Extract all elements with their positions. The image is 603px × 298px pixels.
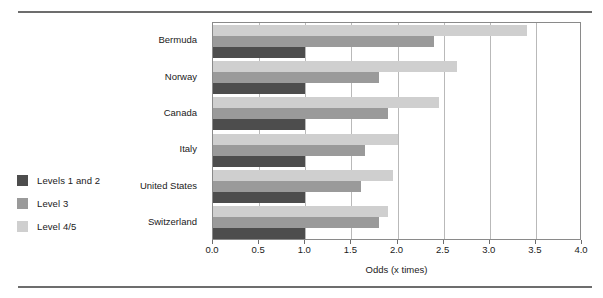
x-tick-label: 2.0	[390, 245, 403, 255]
gridline	[444, 23, 445, 239]
gridline	[490, 23, 491, 239]
category-label: Canada	[164, 108, 197, 118]
bar-bermuda-levels-1-and-2	[213, 47, 305, 58]
bar-united-states-levels-1-and-2	[213, 192, 305, 203]
legend-swatch-icon	[17, 175, 28, 186]
bar-norway-levels-1-and-2	[213, 83, 305, 94]
top-divider-rule	[18, 11, 592, 13]
category-label: Italy	[180, 144, 197, 154]
bar-canada-levels-1-and-2	[213, 119, 305, 130]
bar-bermuda-level-4-5	[213, 25, 527, 36]
bar-canada-level-4-5	[213, 97, 439, 108]
x-tick-label: 1.0	[298, 245, 311, 255]
bar-switzerland-levels-1-and-2	[213, 228, 305, 239]
category-label: Bermuda	[158, 35, 197, 45]
x-tick-label: 3.0	[482, 245, 495, 255]
x-tick-label: 0.5	[252, 245, 265, 255]
bar-bermuda-level-3	[213, 36, 434, 47]
legend-item-label: Level 3	[37, 199, 68, 209]
x-tick-label: 1.5	[344, 245, 357, 255]
plot-area	[212, 22, 581, 240]
bar-switzerland-level-4-5	[213, 206, 388, 217]
chart-page: Levels 1 and 2Level 3Level 4/5 BermudaNo…	[0, 0, 603, 298]
x-tick-label: 4.0	[574, 245, 587, 255]
category-label: Norway	[165, 72, 197, 82]
category-label: United States	[140, 181, 197, 191]
x-axis-title: Odds (x times)	[212, 265, 581, 275]
bar-switzerland-level-3	[213, 217, 379, 228]
bar-canada-level-3	[213, 108, 388, 119]
plot-inner	[213, 23, 580, 239]
bar-united-states-level-3	[213, 181, 361, 192]
bar-norway-level-4-5	[213, 61, 457, 72]
legend-item-label: Level 4/5	[37, 222, 76, 232]
bar-italy-level-3	[213, 145, 365, 156]
bottom-divider-rule	[18, 286, 592, 288]
legend-swatch-icon	[17, 198, 28, 209]
bar-united-states-level-4-5	[213, 170, 393, 181]
category-axis-labels: BermudaNorwayCanadaItalyUnited StatesSwi…	[95, 22, 205, 240]
bar-italy-levels-1-and-2	[213, 156, 305, 167]
x-axis: 0.00.51.01.52.02.53.03.54.0	[212, 240, 581, 256]
x-tick-label: 2.5	[436, 245, 449, 255]
gridline	[536, 23, 537, 239]
x-tick-label: 3.5	[528, 245, 541, 255]
legend-item-label: Levels 1 and 2	[37, 176, 100, 186]
bar-italy-level-4-5	[213, 134, 398, 145]
x-tick-label: 0.0	[205, 245, 218, 255]
bar-norway-level-3	[213, 72, 379, 83]
category-label: Switzerland	[148, 217, 197, 227]
legend-swatch-icon	[17, 221, 28, 232]
gridline	[398, 23, 399, 239]
